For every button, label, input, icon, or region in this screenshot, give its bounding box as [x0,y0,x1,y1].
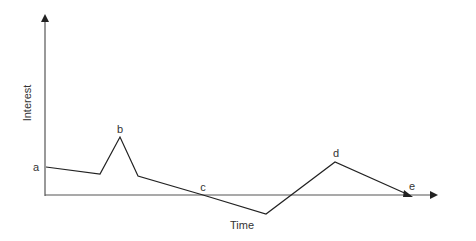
point-label-c: c [200,181,206,193]
point-label-d: d [333,147,339,159]
point-label-b: b [117,123,123,135]
y-axis-title: Interest [21,85,33,122]
x-axis-title: Time [230,219,254,231]
point-label-a: a [33,161,40,173]
point-label-e: e [409,180,415,192]
interest-line [46,137,409,214]
x-axis-arrow-icon [430,191,438,199]
interest-time-diagram: a b c d e Time Interest [0,0,476,241]
diagram-svg: a b c d e Time Interest [0,0,476,241]
y-axis-arrow-icon [41,14,49,22]
